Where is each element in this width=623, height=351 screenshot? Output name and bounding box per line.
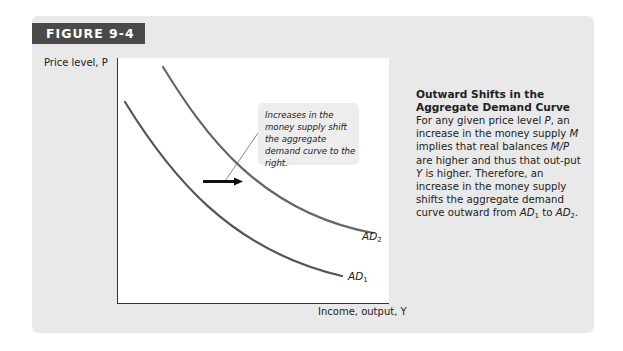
shift-arrow-head — [234, 178, 243, 186]
ad2-label: AD2 — [362, 230, 382, 244]
callout-box: Increases in the money supply shift the … — [258, 103, 359, 165]
caption-text: are higher and thus that out-put — [416, 155, 581, 166]
caption-title-line1: Outward Shifts in the — [416, 88, 586, 101]
caption-title-line2: Aggregate Demand Curve — [416, 101, 586, 114]
ad1-label-sub: 1 — [363, 276, 367, 284]
caption-var: AD — [520, 207, 535, 218]
caption-text: . — [575, 207, 578, 218]
caption-text: For any given price level — [416, 115, 544, 126]
ad2-label-text: AD — [362, 230, 377, 242]
caption-body: For any given price level P, an increase… — [416, 114, 586, 224]
caption-text: to — [539, 207, 556, 218]
ad1-label-text: AD — [348, 270, 363, 282]
ad1-label: AD1 — [348, 270, 368, 284]
caption-var: M — [570, 128, 579, 139]
ad2-label-sub: 2 — [377, 236, 381, 244]
caption: Outward Shifts in the Aggregate Demand C… — [416, 88, 586, 224]
caption-title: Outward Shifts in the Aggregate Demand C… — [416, 88, 586, 114]
caption-var: AD — [556, 207, 571, 218]
x-axis-label: Income, output, Y — [318, 306, 407, 317]
caption-text: implies that real balances — [416, 141, 551, 152]
caption-var: M/P — [551, 141, 569, 152]
